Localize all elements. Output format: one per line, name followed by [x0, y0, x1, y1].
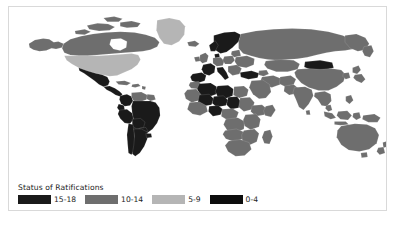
legend-swatch-0-4 — [210, 195, 243, 204]
region-south-africa — [225, 140, 251, 157]
legend-label-0-4: 0-4 — [246, 195, 258, 204]
region-japan-honshu — [353, 74, 365, 83]
region-somalia — [264, 105, 276, 117]
region-russia — [239, 29, 358, 61]
legend-item-0-4[interactable]: 0-4 — [210, 195, 258, 204]
region-philippines — [346, 95, 354, 104]
legend-label-15-18: 15-18 — [54, 195, 76, 204]
region-france — [202, 63, 216, 75]
region-japan — [353, 66, 361, 74]
region-iceland — [187, 41, 199, 47]
world-choropleth-svg — [9, 9, 386, 175]
region-chad — [227, 97, 241, 110]
region-kazakhstan — [264, 60, 299, 72]
legend-item-10-14[interactable]: 10-14 — [85, 195, 143, 204]
region-peru — [118, 109, 134, 123]
legend-item-5-9[interactable]: 5-9 — [152, 195, 200, 204]
region-sulawesi — [353, 112, 361, 120]
legend-title: Status of Ratifications — [18, 183, 378, 193]
region-poland — [223, 56, 235, 64]
region-alaska — [29, 38, 64, 51]
region-southeast-asia — [314, 91, 331, 106]
region-ukraine — [235, 56, 255, 68]
region-turkey — [240, 71, 259, 79]
region-sumatra — [324, 112, 336, 120]
region-argentina — [132, 129, 147, 156]
region-italy — [217, 67, 229, 80]
region-australia — [337, 124, 379, 152]
world-map-canvas — [9, 7, 386, 175]
legend-swatch-10-14 — [85, 195, 118, 204]
region-lesser-antilles — [142, 86, 146, 90]
legend-label-10-14: 10-14 — [121, 195, 143, 204]
map-legend: Status of Ratifications 15-18 10-14 5-9 … — [18, 183, 378, 204]
region-canada-arctic-1 — [87, 23, 115, 31]
region-venezuela — [131, 92, 147, 102]
region-java — [334, 121, 348, 125]
region-united-kingdom — [199, 53, 208, 64]
region-cuba — [116, 81, 131, 86]
region-hispaniola — [131, 84, 140, 88]
region-sri-lanka — [306, 110, 311, 115]
region-new-zealand-south — [377, 147, 385, 155]
region-canada-arctic-4 — [75, 29, 91, 34]
region-borneo — [337, 111, 352, 120]
region-east-africa — [243, 114, 260, 130]
region-new-zealand-north — [383, 141, 386, 148]
region-nigeria — [208, 106, 222, 117]
region-colombia — [119, 94, 133, 106]
legend-label-5-9: 5-9 — [188, 195, 200, 204]
region-germany — [213, 57, 224, 66]
region-canada-arctic-2 — [120, 21, 140, 28]
region-greenland — [156, 18, 185, 45]
region-ireland — [194, 57, 200, 62]
region-caucasus — [258, 70, 269, 76]
map-figure-frame: Status of Ratifications 15-18 10-14 5-9 … — [8, 6, 387, 211]
region-canada-arctic-3 — [104, 17, 123, 22]
region-madagascar — [262, 130, 273, 144]
region-united-states — [64, 54, 140, 77]
region-papua-new-guinea — [362, 114, 380, 122]
region-guyanas — [147, 94, 156, 101]
legend-swatch-5-9 — [152, 195, 185, 204]
legend-item-15-18[interactable]: 15-18 — [18, 195, 76, 204]
region-denmark — [214, 54, 219, 59]
region-malay-peninsula — [325, 105, 332, 112]
region-tasmania — [361, 152, 368, 157]
region-iberia — [190, 72, 206, 83]
region-uruguay — [146, 134, 152, 139]
legend-items-row: 15-18 10-14 5-9 0-4 — [18, 195, 378, 204]
region-central-america — [104, 86, 123, 97]
legend-swatch-15-18 — [18, 195, 51, 204]
region-egypt — [233, 86, 248, 98]
region-india — [293, 87, 313, 110]
region-kamchatka — [362, 45, 373, 57]
